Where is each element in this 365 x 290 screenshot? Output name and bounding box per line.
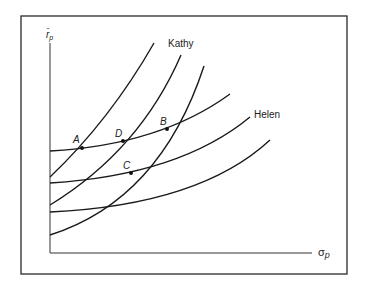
point-d-marker (121, 139, 125, 143)
x-axis-label: σp (318, 246, 330, 260)
point-b-marker (165, 127, 169, 131)
point-d-label: D (115, 128, 122, 139)
kathy-curve-3 (50, 66, 204, 235)
helen-curve-2 (50, 117, 250, 183)
point-b-label: B (160, 116, 167, 127)
kathy-label: Kathy (168, 38, 194, 49)
point-a-label: A (72, 134, 80, 145)
point-c-marker (129, 171, 133, 175)
figure-frame (21, 16, 347, 274)
y-axis-label: r̄p (46, 28, 53, 42)
point-c-label: C (123, 160, 131, 171)
kathy-curve-1 (50, 43, 154, 177)
point-a-marker (80, 146, 84, 150)
helen-label: Helen (254, 109, 280, 120)
indifference-curve-diagram: r̄p σp Kathy Helen A D B C (0, 0, 365, 290)
helen-curve-3 (50, 140, 270, 212)
